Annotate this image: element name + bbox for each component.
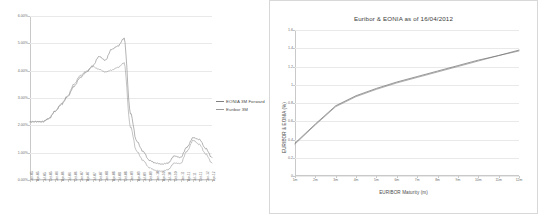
x-tick-label: 2m — [313, 178, 318, 182]
x-tick-label: Apr-12 — [212, 171, 216, 181]
left-chart-plot-area: 0.00%1.00%2.00%3.00%4.00%5.00%6.00% Jan-… — [30, 16, 212, 180]
right-chart-panel: Euribor & EONIA as of 16/04/2012 EURIBOR… — [269, 0, 538, 214]
x-tick-label: 12m — [516, 178, 523, 182]
y-tick-label: 6.00% — [18, 14, 28, 18]
series-line-1 — [30, 63, 212, 172]
legend-item[interactable]: EONIA 3M Forward — [216, 99, 265, 104]
x-tick-label: 4m — [354, 178, 359, 182]
right-chart-x-axis-label: EURIBOR Maturity (m) — [270, 190, 537, 195]
x-tick-label: 7m — [415, 178, 420, 182]
x-tick-label: 10m — [475, 178, 482, 182]
x-tick-label: 3m — [333, 178, 338, 182]
figure-container: 0.00%1.00%2.00%3.00%4.00%5.00%6.00% Jan-… — [0, 0, 538, 214]
legend-color-swatch — [216, 101, 224, 102]
legend-label: EONIA 3M Forward — [226, 99, 265, 104]
series-line-0 — [295, 51, 519, 144]
y-tick-label: 1.6 — [288, 28, 293, 32]
left-chart-panel: 0.00%1.00%2.00%3.00%4.00%5.00%6.00% Jan-… — [0, 0, 269, 214]
y-tick-label: 0.2 — [288, 156, 293, 160]
y-tick-label: 1.4 — [288, 46, 293, 50]
x-tick-label: 11m — [495, 178, 501, 182]
gridline — [295, 176, 519, 177]
y-tick-label: 4.00% — [18, 69, 28, 73]
y-tick-label: 3.00% — [18, 96, 28, 100]
x-tick-label: 9m — [456, 178, 461, 182]
x-tick-label: 8m — [435, 178, 440, 182]
y-tick-label: 1.2 — [288, 65, 293, 69]
x-tick-label: 5m — [374, 178, 379, 182]
x-tick-label: 1m — [293, 178, 298, 182]
y-tick-label: 0.4 — [288, 138, 293, 142]
y-tick-label: 5.00% — [18, 41, 28, 45]
right-chart-title: Euribor & EONIA as of 16/04/2012 — [270, 15, 537, 22]
y-tick-label: 0.00% — [18, 178, 28, 182]
legend-label: Euribor 3M — [226, 107, 248, 112]
right-chart-y-axis-label: EURIBOR & EONIA (%) — [282, 102, 287, 153]
left-chart-series-lines — [30, 16, 212, 180]
y-tick-label: 2.00% — [18, 123, 28, 127]
y-tick-label: 1.00% — [18, 151, 28, 155]
x-tick-label: 6m — [394, 178, 399, 182]
series-line-0 — [30, 38, 212, 165]
right-chart-plot-area: 00.20.40.60.811.21.41.6 1m2m3m4m5m6m7m8m… — [295, 30, 519, 176]
series-line-1 — [295, 50, 519, 143]
y-tick-label: 0.8 — [288, 101, 293, 105]
left-chart-legend: EONIA 3M ForwardEuribor 3M — [216, 99, 265, 114]
legend-color-swatch — [216, 109, 224, 110]
y-tick-label: 0.6 — [288, 119, 293, 123]
y-tick-label: 1 — [291, 83, 293, 87]
right-chart-series-lines — [295, 30, 519, 176]
legend-item[interactable]: Euribor 3M — [216, 107, 265, 112]
